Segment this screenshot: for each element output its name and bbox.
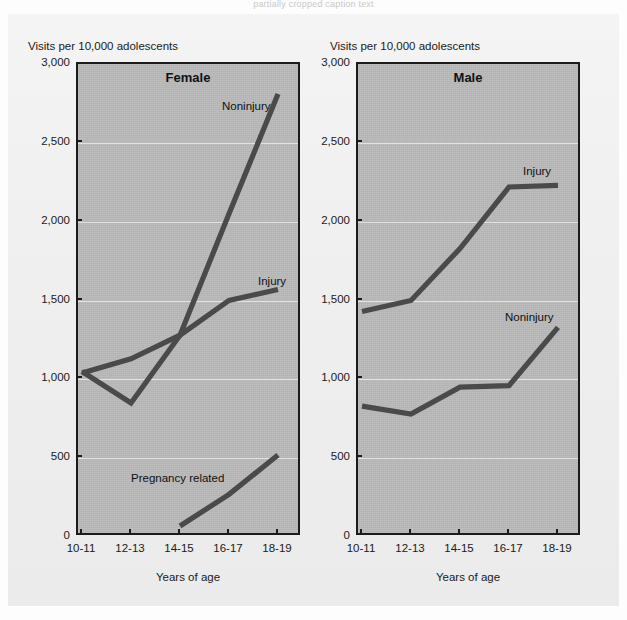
ytick-mark-2000-male bbox=[356, 219, 362, 221]
ytick-label-0-female: 0 bbox=[24, 529, 70, 541]
ytick-mark-1000-male bbox=[356, 376, 362, 378]
ytick-mark-1500-male bbox=[356, 298, 362, 300]
xtick-label-1011-male: 10-11 bbox=[347, 542, 376, 554]
plot-area-female bbox=[76, 62, 300, 535]
xtick-mark-1819-male bbox=[556, 529, 558, 535]
ytick-mark-2500-male bbox=[356, 140, 362, 142]
series-lines-female bbox=[78, 64, 302, 537]
ytick-label-2500-female: 2,500 bbox=[24, 135, 70, 147]
xtick-label-1415-male: 14-15 bbox=[444, 542, 473, 554]
ytick-label-2000-female: 2,000 bbox=[24, 214, 70, 226]
xtick-label-1415-female: 14-15 bbox=[164, 542, 193, 554]
series-label-noninjury-female: Noninjury bbox=[222, 100, 271, 112]
x-axis-title-male: Years of age bbox=[436, 571, 500, 583]
xtick-mark-1415-female bbox=[178, 529, 180, 535]
xtick-mark-1213-male bbox=[409, 529, 411, 535]
x-axis-title-female: Years of age bbox=[156, 571, 220, 583]
ytick-label-3000-female: 3,000 bbox=[24, 56, 70, 68]
xtick-mark-1011-male bbox=[360, 529, 362, 535]
panel-female: Visits per 10,000 adolescents Female Non… bbox=[0, 0, 320, 620]
panel-title-female: Female bbox=[166, 70, 211, 85]
xtick-label-1617-female: 16-17 bbox=[213, 542, 242, 554]
xtick-label-1617-male: 16-17 bbox=[493, 542, 522, 554]
ytick-label-1000-female: 1,000 bbox=[24, 371, 70, 383]
xtick-label-1011-female: 10-11 bbox=[67, 542, 96, 554]
panel-male: Visits per 10,000 adolescents Male Injur… bbox=[312, 0, 627, 620]
line-noninjury-female bbox=[82, 94, 278, 403]
ytick-label-2500-male: 2,500 bbox=[304, 135, 350, 147]
ytick-label-2000-male: 2,000 bbox=[304, 214, 350, 226]
series-label-injury-male: Injury bbox=[523, 165, 551, 177]
plot-area-male bbox=[356, 62, 580, 535]
line-noninjury-male bbox=[362, 327, 558, 414]
ytick-label-3000-male: 3,000 bbox=[304, 56, 350, 68]
y-axis-title-female: Visits per 10,000 adolescents bbox=[28, 40, 178, 52]
series-lines-male bbox=[358, 64, 582, 537]
ytick-label-500-male: 500 bbox=[304, 450, 350, 462]
xtick-mark-1617-male bbox=[507, 529, 509, 535]
xtick-mark-1011-female bbox=[80, 529, 82, 535]
series-label-pregnancy-female: Pregnancy related bbox=[131, 472, 224, 484]
ytick-mark-2500-female bbox=[76, 140, 82, 142]
series-label-injury-female: Injury bbox=[258, 275, 286, 287]
xtick-label-1213-female: 12-13 bbox=[115, 542, 144, 554]
ytick-label-1500-female: 1,500 bbox=[24, 293, 70, 305]
ytick-mark-1000-female bbox=[76, 376, 82, 378]
figure-page: partially cropped caption text Visits pe… bbox=[0, 0, 627, 620]
xtick-mark-1213-female bbox=[129, 529, 131, 535]
xtick-label-1819-male: 18-19 bbox=[542, 542, 571, 554]
ytick-label-500-female: 500 bbox=[24, 450, 70, 462]
line-injury-male bbox=[362, 185, 558, 311]
line-pregnancy-female bbox=[180, 455, 278, 526]
panel-title-male: Male bbox=[454, 70, 483, 85]
xtick-mark-1617-female bbox=[227, 529, 229, 535]
ytick-mark-2000-female bbox=[76, 219, 82, 221]
xtick-mark-1819-female bbox=[276, 529, 278, 535]
xtick-label-1213-male: 12-13 bbox=[395, 542, 424, 554]
ytick-mark-500-female bbox=[76, 455, 82, 457]
y-axis-title-male: Visits per 10,000 adolescents bbox=[330, 40, 480, 52]
ytick-mark-500-male bbox=[356, 455, 362, 457]
series-label-noninjury-male: Noninjury bbox=[505, 311, 554, 323]
ytick-label-1500-male: 1,500 bbox=[304, 293, 350, 305]
ytick-label-0-male: 0 bbox=[304, 529, 350, 541]
ytick-label-1000-male: 1,000 bbox=[304, 371, 350, 383]
ytick-mark-1500-female bbox=[76, 298, 82, 300]
xtick-mark-1415-male bbox=[458, 529, 460, 535]
xtick-label-1819-female: 18-19 bbox=[262, 542, 291, 554]
